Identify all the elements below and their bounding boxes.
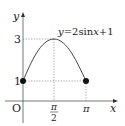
y-axis-label: y	[12, 10, 20, 23]
endpoint-right	[83, 78, 89, 84]
guide-lines	[23, 39, 86, 101]
x-tick-half-pi-denominator: 2	[51, 113, 57, 123]
x-tick-pi: π	[82, 103, 90, 114]
sine-curve	[23, 39, 86, 81]
x-tick-half-pi-numerator: π	[50, 102, 58, 112]
equation-end: +1	[99, 26, 114, 37]
origin-label: O	[12, 102, 21, 115]
x-tick-half-pi: π 2	[50, 102, 58, 123]
equation-mid: =2sin	[64, 26, 94, 37]
y-tick-1: 1	[14, 75, 21, 88]
sine-graph: y x O 3 1 π π 2 y=2sinx+1	[0, 0, 125, 126]
y-axis-arrow-icon	[21, 12, 25, 17]
equation-label: y=2sinx+1	[57, 26, 114, 37]
x-axis-label: x	[110, 102, 117, 115]
y-tick-3: 3	[14, 33, 21, 46]
